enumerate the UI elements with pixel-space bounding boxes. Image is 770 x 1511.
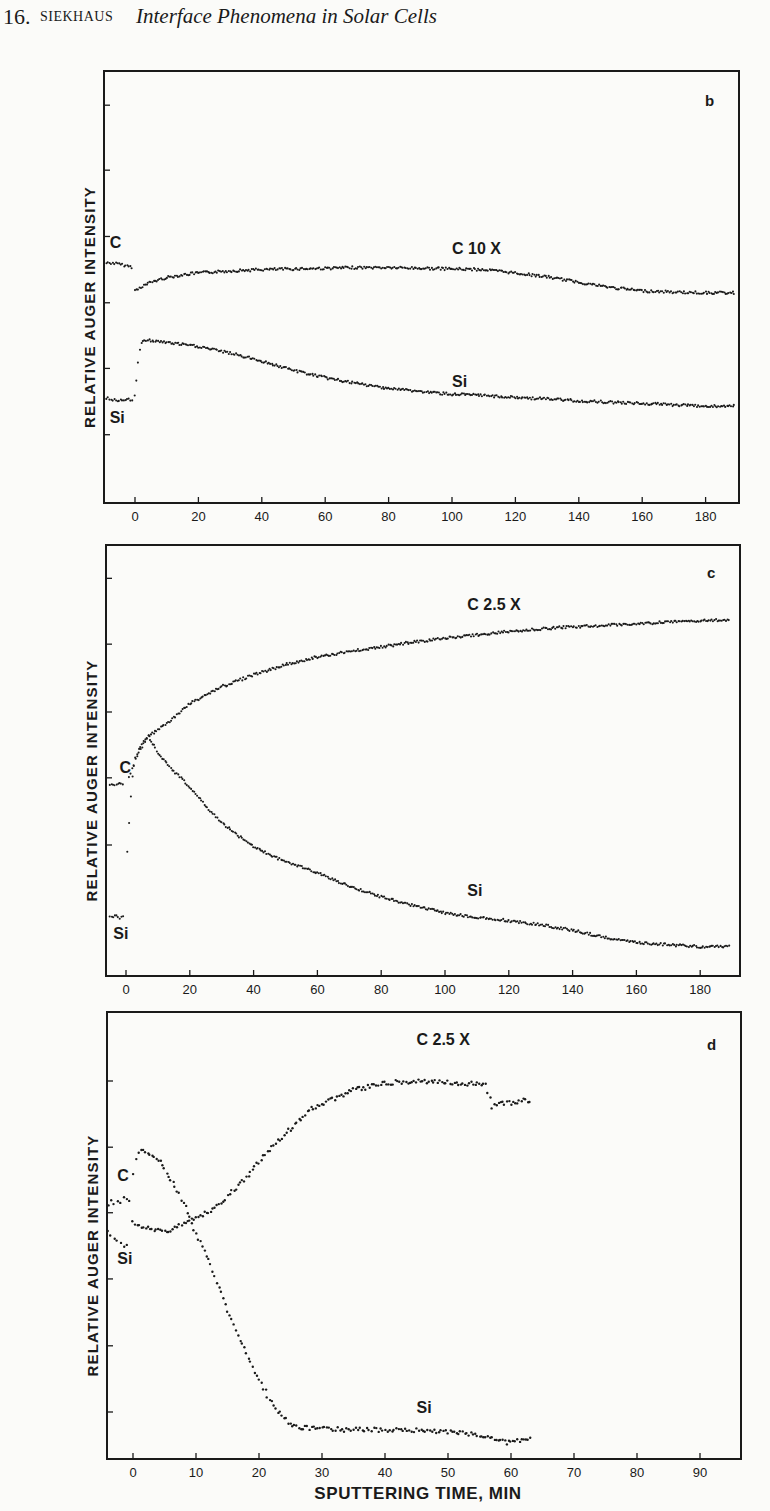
x-tick-label: 40 xyxy=(378,1465,392,1480)
curve-label: Si xyxy=(117,1250,132,1267)
x-tick-label: 80 xyxy=(374,982,388,997)
x-tick-label: 120 xyxy=(505,509,527,524)
x-tick-label: 20 xyxy=(252,1465,266,1480)
x-tick-label: 0 xyxy=(131,509,138,524)
x-tick-label: 30 xyxy=(315,1465,329,1480)
y-axis-label: RELATIVE AUGER INTENSITY xyxy=(84,1134,101,1376)
x-tick-label: 40 xyxy=(255,509,269,524)
y-axis-label: RELATIVE AUGER INTENSITY xyxy=(81,186,98,428)
data-series xyxy=(105,261,132,269)
x-tick-label: 140 xyxy=(562,982,584,997)
x-tick-label: 90 xyxy=(693,1465,707,1480)
chart-panel-c: 020406080100120140160180RELATIVE AUGER I… xyxy=(83,545,740,997)
chart-panel-b: 020406080100120140160180RELATIVE AUGER I… xyxy=(81,71,739,524)
x-tick-label: 80 xyxy=(381,509,395,524)
x-tick-label: 60 xyxy=(504,1465,518,1480)
data-series xyxy=(105,396,133,402)
data-series xyxy=(132,1149,532,1446)
x-tick-label: 60 xyxy=(318,509,332,524)
x-tick-label: 0 xyxy=(122,982,129,997)
data-series xyxy=(109,914,125,919)
data-series xyxy=(109,782,124,786)
x-tick-label: 120 xyxy=(498,982,520,997)
x-tick-label: 100 xyxy=(434,982,456,997)
curve-label: Si xyxy=(467,882,482,899)
data-series xyxy=(131,1078,531,1233)
curve-label: C 2.5 X xyxy=(467,596,521,613)
x-tick-label: 160 xyxy=(626,982,648,997)
chart-panel-d: 0102030405060708090RELATIVE AUGER INTENS… xyxy=(84,1012,741,1503)
x-tick-label: 140 xyxy=(568,509,590,524)
data-series xyxy=(107,1196,130,1207)
x-tick-label: 80 xyxy=(630,1465,644,1480)
data-series xyxy=(126,734,730,949)
data-series xyxy=(128,618,730,778)
x-tick-label: 0 xyxy=(129,1465,136,1480)
x-tick-label: 180 xyxy=(689,982,711,997)
plot-frame xyxy=(106,545,740,976)
data-series xyxy=(134,338,735,408)
curve-label: C xyxy=(110,234,122,251)
x-tick-label: 40 xyxy=(246,982,260,997)
panel-letter: c xyxy=(707,564,715,581)
panel-letter: b xyxy=(705,92,714,109)
curve-label: C xyxy=(117,1167,129,1184)
x-tick-label: 50 xyxy=(441,1465,455,1480)
curve-label: C xyxy=(120,759,132,776)
panel-letter: d xyxy=(707,1036,716,1053)
curve-label: Si xyxy=(417,1399,432,1416)
curve-label: Si xyxy=(110,409,125,426)
x-tick-label: 180 xyxy=(695,509,717,524)
auger-depth-profile-figure: 020406080100120140160180RELATIVE AUGER I… xyxy=(0,0,770,1511)
x-tick-label: 100 xyxy=(441,509,463,524)
plot-frame xyxy=(104,71,739,503)
data-series xyxy=(107,1230,129,1248)
x-tick-label: 70 xyxy=(567,1465,581,1480)
curve-label: Si xyxy=(113,925,128,942)
curve-label: C 10 X xyxy=(452,240,501,257)
x-tick-label: 20 xyxy=(183,982,197,997)
x-tick-label: 20 xyxy=(191,509,205,524)
curve-label: Si xyxy=(452,373,467,390)
x-tick-label: 10 xyxy=(189,1465,203,1480)
y-axis-label: RELATIVE AUGER INTENSITY xyxy=(83,659,100,901)
x-tick-label: 60 xyxy=(310,982,324,997)
x-axis-label: SPUTTERING TIME, MIN xyxy=(314,1484,522,1503)
curve-label: C 2.5 X xyxy=(417,1031,471,1048)
x-tick-label: 160 xyxy=(631,509,653,524)
data-series xyxy=(134,265,735,295)
